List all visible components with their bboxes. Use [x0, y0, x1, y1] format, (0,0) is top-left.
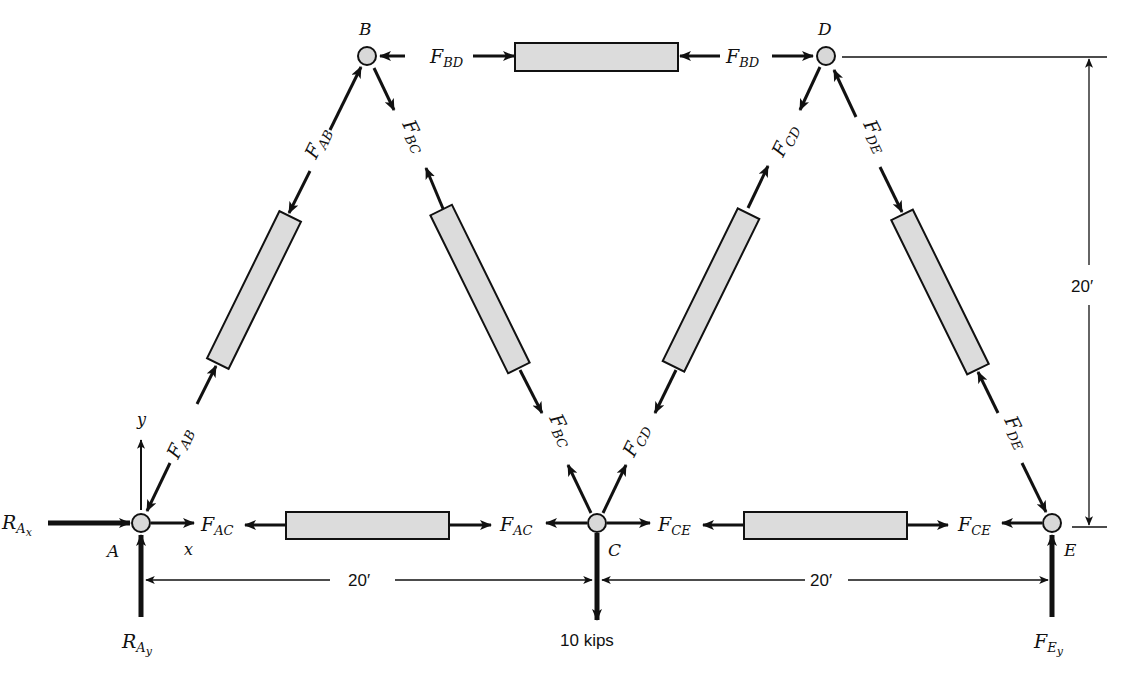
- label-fde-top: FDE: [856, 115, 894, 157]
- label-ray: RAy: [121, 630, 153, 658]
- label-fcd-bottom: FCD: [617, 419, 655, 462]
- bar-ce: [744, 512, 907, 539]
- bar-ac: [286, 512, 449, 539]
- arrow-icon: [978, 372, 998, 413]
- reaction-fey: FEy: [1033, 535, 1064, 658]
- member-cd: FCD FCD: [603, 67, 820, 513]
- bar-de: [891, 210, 988, 375]
- arrow-icon: [603, 465, 626, 513]
- joint-d: D: [817, 19, 835, 65]
- member-de: FDE FDE: [834, 70, 1046, 512]
- label-node-e: E: [1063, 540, 1077, 560]
- member-ab: FAB FAB: [147, 67, 361, 511]
- dimension-span-ce: 20′: [602, 571, 1048, 590]
- member-ce: FCE FCE: [607, 512, 1042, 539]
- label-load: 10 kips: [560, 631, 614, 650]
- member-bc: FBC FBC: [374, 68, 591, 513]
- arrow-icon: [800, 67, 820, 110]
- label-fey: FEy: [1033, 630, 1064, 658]
- arrow-icon: [374, 68, 394, 110]
- arrow-icon: [147, 463, 170, 511]
- joint-c: C: [588, 514, 621, 560]
- label-node-b: B: [358, 19, 372, 39]
- joint-circle: [817, 47, 835, 65]
- label-fbc-top: FBC: [395, 115, 432, 157]
- label-fcd-top: FCD: [766, 119, 804, 162]
- label-node-c: C: [608, 540, 621, 560]
- member-bd: FBD FBD: [380, 43, 813, 71]
- label-rax: RAx: [1, 511, 33, 539]
- label-fac-left: FAC: [200, 513, 234, 538]
- label-span-ce: 20′: [810, 571, 832, 590]
- arrow-icon: [655, 370, 676, 413]
- arrow-icon: [880, 167, 902, 212]
- reaction-ray: RAy: [121, 535, 153, 658]
- load-10-kips: 10 kips: [560, 533, 614, 650]
- member-ac: FAC FAC: [151, 512, 587, 539]
- joint-b: B: [358, 19, 376, 65]
- arrow-icon: [197, 366, 216, 404]
- bar-cd: [663, 208, 760, 371]
- label-y-axis: y: [136, 410, 147, 429]
- arrow-icon: [330, 67, 361, 130]
- arrow-icon: [289, 171, 310, 213]
- arrow-icon: [426, 168, 444, 211]
- label-fde-bottom: FDE: [997, 411, 1035, 453]
- label-fbd-right: FBD: [725, 45, 760, 70]
- label-fab-bottom: FAB: [161, 423, 198, 464]
- dimension-span-ac: 20′: [146, 571, 592, 590]
- label-node-a: A: [105, 541, 119, 561]
- label-fac-right: FAC: [499, 513, 533, 538]
- arrow-icon: [520, 370, 542, 413]
- label-fbd-left: FBD: [429, 45, 464, 70]
- arrow-icon: [748, 166, 768, 208]
- bar-ab: [207, 211, 301, 369]
- label-x-axis: x: [184, 540, 193, 559]
- label-fbc-bottom: FBC: [542, 409, 579, 451]
- arrow-icon: [1022, 463, 1046, 512]
- joint-circle: [358, 47, 376, 65]
- label-fce-left: FCE: [657, 513, 691, 538]
- joint-circle: [132, 514, 150, 532]
- bar-bd: [515, 43, 678, 71]
- truss-svg: FBD FBD FAB FAB FBC FBC: [0, 0, 1124, 675]
- reaction-rax: RAx: [1, 511, 130, 539]
- bar-bc: [430, 205, 529, 374]
- arrow-icon: [834, 70, 856, 117]
- label-fce-right: FCE: [957, 513, 991, 538]
- label-height: 20′: [1071, 277, 1093, 296]
- label-span-ac: 20′: [348, 571, 370, 590]
- joint-circle: [1043, 514, 1061, 532]
- arrow-icon: [568, 465, 591, 513]
- joint-circle: [588, 514, 606, 532]
- truss-diagram: FBD FBD FAB FAB FBC FBC: [0, 0, 1124, 675]
- joint-e: E: [1043, 514, 1077, 560]
- label-node-d: D: [817, 19, 832, 39]
